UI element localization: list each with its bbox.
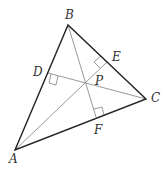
altitudes [15, 25, 146, 150]
label-P: P [94, 74, 104, 88]
right-angle-mark-E [94, 56, 101, 68]
label-C: C [151, 91, 160, 105]
label-D: D [32, 65, 43, 79]
label-B: B [64, 8, 74, 22]
label-E: E [111, 50, 121, 64]
label-A: A [8, 152, 18, 166]
triangle-diagram: B A C D E F P [0, 0, 167, 170]
label-F: F [93, 123, 103, 137]
